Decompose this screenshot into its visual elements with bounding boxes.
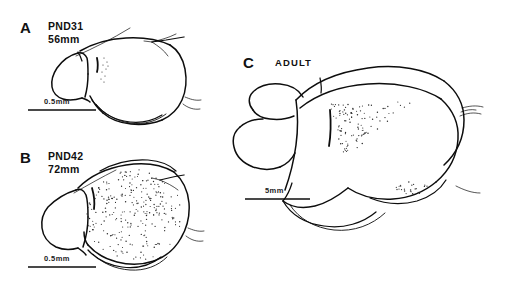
panel-b-caption-line1: PND42 [48, 150, 83, 162]
panel-b-scale-label: 0.5mm [44, 254, 70, 263]
panel-c-letter: C [243, 54, 254, 71]
panel-a-caption-line1: PND31 [48, 20, 83, 32]
brain-development-figure: A PND31 56mm [0, 0, 513, 294]
panel-c-scale-label: 5mm [265, 186, 284, 195]
panel-a-scale-label: 0.5mm [44, 97, 70, 106]
panel-a-letter: A [20, 19, 31, 36]
panel-a-caption-line2: 56mm [48, 33, 80, 45]
panel-c-caption-line1: ADULT [275, 57, 312, 68]
panel-b-letter: B [20, 149, 31, 166]
panel-b-caption-line2: 72mm [48, 163, 80, 175]
